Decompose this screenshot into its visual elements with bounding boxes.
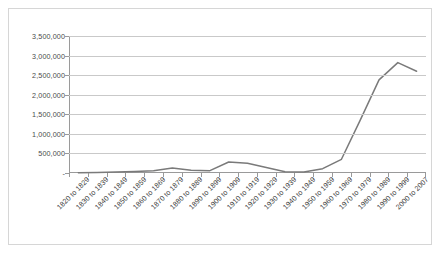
- y-axis-tick-label: 3,500,000: [32, 32, 65, 41]
- x-axis-labels: 1820 to 18291830 to 18391840 to 18491850…: [69, 175, 426, 245]
- y-axis-tick-label: 3,000,000: [32, 51, 65, 60]
- y-axis-tick-label: 1,000,000: [32, 129, 65, 138]
- y-axis-tick-label: 500,000: [38, 149, 65, 158]
- chart-plot-area: -500,0001,000,0001,500,0002,000,0002,500…: [9, 9, 431, 244]
- series-polyline: [78, 63, 416, 173]
- y-axis-tick-label: 2,000,000: [32, 90, 65, 99]
- y-axis-tick-label: 1,500,000: [32, 110, 65, 119]
- y-axis-tick: [65, 95, 69, 96]
- y-axis-tick: [65, 134, 69, 135]
- figure-caption: [10, 252, 430, 266]
- gridline: [69, 36, 426, 37]
- gridline: [69, 134, 426, 135]
- gridline: [69, 75, 426, 76]
- y-axis-tick: [65, 36, 69, 37]
- gridline: [69, 153, 426, 154]
- gridline: [69, 95, 426, 96]
- y-axis-tick-label: 2,500,000: [32, 71, 65, 80]
- plot-region: [69, 36, 426, 173]
- gridline: [69, 56, 426, 57]
- chart-figure: -500,0001,000,0001,500,0002,000,0002,500…: [8, 8, 432, 245]
- y-axis-tick: [65, 75, 69, 76]
- y-axis-tick: [65, 153, 69, 154]
- gridline: [69, 114, 426, 115]
- y-axis-tick: [65, 114, 69, 115]
- y-axis-tick: [65, 56, 69, 57]
